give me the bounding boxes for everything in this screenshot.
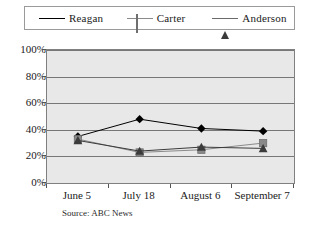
diamond-marker-icon: [39, 14, 65, 23]
y-tick-label: 0%: [6, 177, 46, 188]
x-tick-mark: [108, 184, 109, 188]
x-tick-label: August 6: [180, 189, 220, 201]
legend-item-carter: Carter: [121, 13, 209, 24]
y-axis: 0%20%40%60%80%100%: [0, 49, 46, 184]
x-tick-label: September 7: [234, 189, 289, 201]
triangle-marker-icon: [212, 14, 238, 23]
y-tick-label: 80%: [6, 71, 46, 82]
square-marker-icon: [127, 14, 153, 23]
y-tick-label: 40%: [6, 124, 46, 135]
legend-label-anderson: Anderson: [242, 13, 286, 24]
poll-line-chart: Reagan Carter Anderson 0%20%40%60%80%100…: [0, 0, 315, 236]
legend-label-carter: Carter: [157, 13, 186, 24]
series-carter: [74, 136, 266, 156]
x-tick-label: July 18: [123, 189, 155, 201]
series-lines: [47, 50, 294, 183]
legend-item-reagan: Reagan: [25, 13, 121, 24]
legend-item-anderson: Anderson: [208, 13, 294, 24]
series-reagan: [74, 115, 268, 141]
chart-legend: Reagan Carter Anderson: [24, 6, 295, 30]
y-tick-label: 100%: [6, 44, 46, 55]
source-note: Source: ABC News: [62, 208, 133, 218]
y-tick-label: 20%: [6, 150, 46, 161]
legend-label-reagan: Reagan: [69, 13, 103, 24]
x-tick-mark: [170, 184, 171, 188]
plot-area: [46, 49, 295, 184]
x-tick-mark: [231, 184, 232, 188]
x-tick-mark: [293, 184, 294, 188]
x-axis: June 5July 18August 6September 7: [46, 184, 295, 202]
x-tick-mark: [46, 184, 47, 188]
y-tick-label: 60%: [6, 97, 46, 108]
x-tick-label: June 5: [63, 189, 91, 201]
